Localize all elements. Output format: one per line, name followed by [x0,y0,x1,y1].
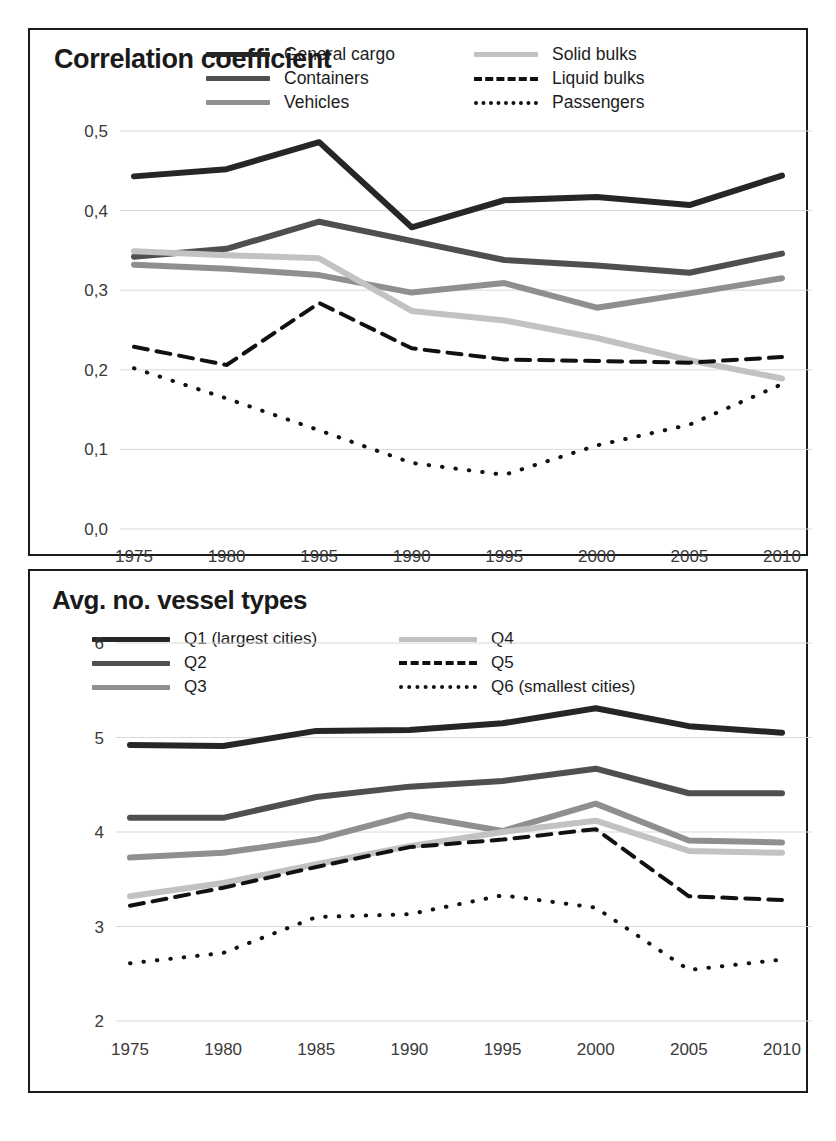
data-series-general-cargo [134,142,782,227]
x-axis-tick-label: 2005 [670,1040,708,1059]
x-axis-tick-label: 1980 [204,1040,242,1059]
x-axis-tick-label: 1995 [484,1040,522,1059]
data-series-q6-smallest-cities [130,895,782,970]
data-series-containers [134,222,782,273]
y-axis-tick-label: 6 [95,634,104,653]
page-caption [18,1120,818,1136]
y-axis-tick-label: 0,0 [84,520,108,539]
x-axis-tick-label: 1995 [485,547,523,566]
x-axis-tick-label: 1980 [208,547,246,566]
data-series-passengers [134,368,782,475]
x-axis-tick-label: 2000 [577,1040,615,1059]
x-axis-tick-label: 1975 [115,547,153,566]
data-series-q1-largest-cities [130,708,782,746]
x-axis-tick-label: 2010 [763,1040,801,1059]
y-axis-tick-label: 3 [95,918,104,937]
plot-area-bottom: 2345619751980198519901995200020052010 [30,571,810,1095]
y-axis-tick-label: 0,3 [84,281,108,300]
y-axis-tick-label: 0,4 [84,202,108,221]
figure-page: Correlation coefficient General cargoSol… [0,0,836,1141]
chart-panel-correlation-coefficient: Correlation coefficient General cargoSol… [28,28,808,556]
x-axis-tick-label: 1985 [297,1040,335,1059]
x-axis-tick-label: 1985 [300,547,338,566]
x-axis-tick-label: 1975 [111,1040,149,1059]
data-series-q2 [130,769,782,818]
y-axis-tick-label: 5 [95,729,104,748]
y-axis-tick-label: 0,2 [84,361,108,380]
chart-panel-avg-no-vessel-types: Avg. no. vessel types Q1 (largest cities… [28,569,808,1093]
x-axis-tick-label: 2005 [671,547,709,566]
y-axis-tick-label: 4 [95,823,104,842]
data-series-liquid-bulks [134,303,782,365]
y-axis-tick-label: 0,1 [84,440,108,459]
y-axis-tick-label: 0,5 [84,122,108,141]
plot-area-top: 0,00,10,20,30,40,51975198019851990199520… [30,30,810,558]
y-axis-tick-label: 2 [95,1012,104,1031]
x-axis-tick-label: 1990 [391,1040,429,1059]
x-axis-tick-label: 2010 [763,547,801,566]
x-axis-tick-label: 2000 [578,547,616,566]
x-axis-tick-label: 1990 [393,547,431,566]
